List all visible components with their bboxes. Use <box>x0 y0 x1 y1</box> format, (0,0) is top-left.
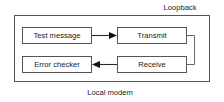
diagram-canvas: Test message Transmit Error checker Rece… <box>0 0 224 102</box>
receive-label: Receive <box>138 60 165 69</box>
node-receive: Receive <box>118 57 187 73</box>
loopback-label: Loopback <box>164 3 197 12</box>
arrow-right-icon <box>109 32 117 39</box>
edge-test-message-to-transmit <box>92 32 117 39</box>
test-message-label: Test message <box>34 31 81 40</box>
loopback-diagram: Test message Transmit Error checker Rece… <box>0 0 224 102</box>
node-transmit: Transmit <box>118 28 187 44</box>
arrow-left-icon <box>92 61 100 68</box>
edge-receive-to-error-checker <box>92 61 117 68</box>
node-error-checker: Error checker <box>23 57 92 73</box>
node-test-message: Test message <box>23 28 92 44</box>
loopback-path <box>187 36 195 65</box>
transmit-label: Transmit <box>137 31 167 40</box>
local-modem-label: Local modem <box>87 88 133 97</box>
error-checker-label: Error checker <box>34 60 80 69</box>
